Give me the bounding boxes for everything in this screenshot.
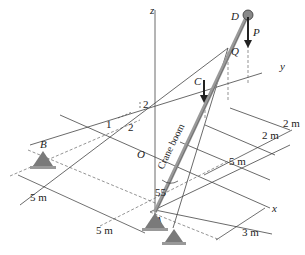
load-P-label: P: [252, 26, 260, 38]
dim-left-line: [18, 175, 145, 233]
dim-bottom-right: 3 m: [242, 226, 259, 238]
crane-boom-diagram: z x y 2 1 2 Crane boom 55 D Q C O B A P: [0, 0, 305, 255]
label-B: B: [40, 138, 47, 150]
label-O: O: [137, 148, 145, 160]
y-axis-label: y: [279, 60, 285, 72]
crane-boom-label: Crane boom: [155, 122, 187, 171]
dim-mid: 5 m: [229, 155, 246, 167]
load-P-arrowhead: [244, 40, 252, 48]
label-Q: Q: [231, 45, 239, 57]
slope-rise-left: 1: [106, 118, 112, 130]
crane-boom-edge: [156, 14, 249, 212]
dim-left-2: 5 m: [96, 224, 113, 236]
crane-boom: [155, 14, 248, 212]
base-line-4: [230, 108, 290, 130]
dim-left-1: 5 m: [30, 191, 47, 203]
z-axis-label: z: [149, 4, 155, 16]
dim-top-2: 2 m: [262, 129, 279, 141]
label-D: D: [230, 10, 239, 22]
dashed-B-line: [10, 120, 140, 176]
angle-label: 55: [155, 186, 167, 198]
label-C: C: [194, 75, 202, 87]
support-O: [142, 213, 168, 231]
dim-top-1: 2 m: [283, 117, 300, 129]
support-A: [162, 229, 186, 245]
x-axis-label: x: [271, 202, 277, 214]
